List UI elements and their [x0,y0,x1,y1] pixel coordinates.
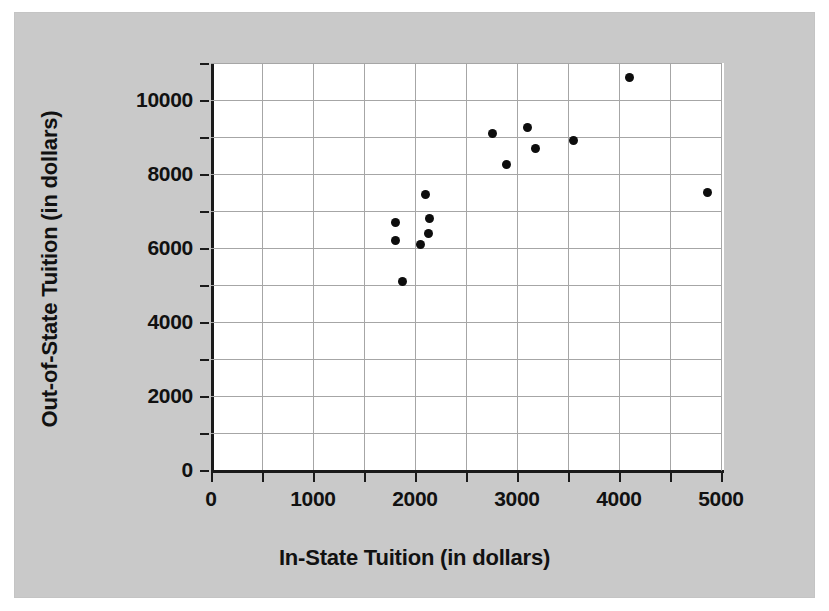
x-axis-tick [568,473,570,482]
x-axis-tick [619,473,621,482]
x-tick-label: 2000 [392,487,438,511]
data-point [398,277,407,286]
x-tick-label: 4000 [596,487,642,511]
data-point [531,144,540,153]
x-axis-tick [466,473,468,482]
y-axis-tick [200,322,209,324]
gridline-vertical [517,63,518,470]
x-axis-tick [517,473,519,482]
data-point [523,123,532,132]
x-axis-tick [670,473,672,482]
y-axis-tick [200,433,209,435]
y-axis-title: Out-of-State Tuition (in dollars) [37,69,63,469]
x-axis-tick [262,473,264,482]
gridline-vertical [466,63,467,470]
page-margin-left [0,0,14,611]
gridline-vertical [721,63,722,470]
y-tick-label: 2000 [147,384,193,408]
y-axis-tick [200,396,209,398]
data-point [569,136,578,145]
gridline-vertical [568,63,569,470]
y-tick-label: 6000 [147,236,193,260]
gridline-horizontal [211,211,721,212]
data-point [391,218,400,227]
y-tick-label: 4000 [147,310,193,334]
gridline-horizontal [211,137,721,138]
gridline-horizontal [211,174,721,175]
x-tick-label: 3000 [494,487,540,511]
data-point [421,190,430,199]
y-axis-tick [200,174,209,176]
x-axis-tick [721,473,723,482]
x-tick-label: 0 [205,487,216,511]
y-axis-tick [200,63,209,65]
gridline-vertical [313,63,314,470]
x-axis-title: In-State Tuition (in dollars) [0,545,829,571]
y-axis-tick [200,470,209,472]
data-point [424,229,433,238]
data-point [625,73,634,82]
y-axis-tick [200,100,209,102]
data-point [425,214,434,223]
page-margin-top [0,0,829,12]
data-point [488,129,497,138]
gridline-horizontal [211,285,721,286]
gridline-vertical [364,63,365,470]
y-tick-label: 10000 [136,88,193,112]
y-axis-tick [200,285,209,287]
x-axis-tick [211,473,213,482]
gridline-horizontal [211,248,721,249]
page-margin-right [815,0,829,611]
page-margin-bottom [0,598,829,611]
scatter-plot-figure: 0100020003000400050000200040006000800010… [0,0,829,611]
gridline-horizontal [211,396,721,397]
y-axis-tick [200,359,209,361]
gridline-horizontal [211,359,721,360]
y-axis-tick [200,248,209,250]
gridline-horizontal [211,63,721,64]
x-axis-tick [415,473,417,482]
y-tick-label: 0 [182,458,193,482]
y-axis-tick [200,211,209,213]
data-point [416,240,425,249]
plot-area [211,63,724,473]
y-axis-tick [200,137,209,139]
gridline-horizontal [211,100,721,101]
gridline-vertical [415,63,416,470]
x-tick-label: 5000 [698,487,744,511]
gridline-vertical [262,63,263,470]
x-tick-label: 1000 [290,487,336,511]
gridline-horizontal [211,433,721,434]
y-tick-label: 8000 [147,162,193,186]
gridline-horizontal [211,322,721,323]
gridline-vertical [670,63,671,470]
x-axis-tick [364,473,366,482]
gridline-vertical [619,63,620,470]
x-axis-tick [313,473,315,482]
